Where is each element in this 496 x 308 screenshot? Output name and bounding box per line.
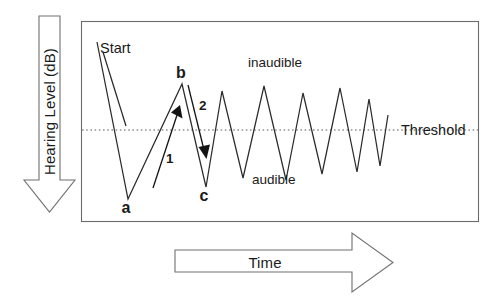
time-arrow: Time: [175, 233, 393, 292]
start-label: Start: [100, 40, 131, 56]
point-label-a: a: [122, 199, 131, 216]
time-arrow-shape: [175, 233, 393, 292]
region-label-inaudible: inaudible: [248, 55, 302, 70]
point-label-b: b: [176, 64, 186, 81]
y-axis-label: Hearing Level (dB): [41, 48, 58, 175]
point-label-c: c: [200, 187, 209, 204]
threshold-label: Threshold: [401, 122, 465, 138]
figure-root: Hearing Level (dB) Threshold Start 1 2 a…: [0, 0, 496, 308]
x-axis-label: Time: [248, 254, 281, 271]
hearing-level-arrow: Hearing Level (dB): [24, 16, 75, 212]
step-1-label: 1: [166, 151, 174, 166]
region-label-audible: audible: [252, 172, 296, 187]
bekesy-tracing-figure: Hearing Level (dB) Threshold Start 1 2 a…: [0, 0, 496, 308]
step-2-label: 2: [199, 98, 207, 113]
